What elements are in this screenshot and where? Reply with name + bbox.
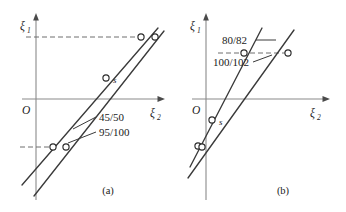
panel-a-marker-lower-2 — [63, 144, 69, 150]
panel-b-x-axis-symbol: ξ — [310, 107, 315, 120]
panel-a-caption: (a) — [102, 185, 114, 197]
panel-b-y-axis-subscript: 1 — [197, 26, 201, 35]
panel-a-marker-upper-1 — [138, 34, 144, 40]
panel-a-y-axis-arrow — [33, 13, 39, 21]
figure-svg: ξ 1 ξ 2 O s 45/50 95/100 (a) — [0, 0, 346, 212]
panel-a-y-axis-symbol: ξ — [20, 20, 25, 33]
panel-a-x-axis-subscript: 2 — [157, 113, 161, 122]
panel-b-line-label-100-102: 100/102 — [213, 56, 249, 68]
panel-a-line-45-50 — [22, 28, 158, 185]
figure-container: ξ 1 ξ 2 O s 45/50 95/100 (a) — [0, 0, 346, 212]
panel-a-marker-upper-2 — [152, 34, 158, 40]
panel-b: ξ 1 ξ 2 O s 80/82 100/102 (b) — [188, 13, 330, 200]
panel-a-x-axis-arrow — [158, 96, 166, 102]
panel-b-intersection-label: s — [219, 117, 223, 127]
panel-a-line-label-95-100: 95/100 — [99, 126, 130, 138]
panel-b-caption: (b) — [277, 185, 290, 197]
panel-a-marker-intersection — [103, 75, 109, 81]
panel-a-marker-lower-1 — [50, 144, 56, 150]
panel-b-x-axis-arrow — [323, 96, 331, 102]
panel-a-leader-95-100 — [68, 132, 96, 143]
panel-b-origin-label: O — [192, 104, 201, 116]
panel-a-line-label-45-50: 45/50 — [99, 111, 125, 123]
panel-b-x-axis-subscript: 2 — [317, 113, 321, 122]
panel-a-origin-label: O — [22, 104, 31, 116]
panel-a-y-axis-subscript: 1 — [27, 26, 31, 35]
panel-b-line-label-80-82: 80/82 — [222, 34, 247, 46]
panel-b-marker-lower-2 — [199, 144, 205, 150]
panel-a: ξ 1 ξ 2 O s 45/50 95/100 (a) — [20, 13, 165, 200]
panel-a-x-axis-symbol: ξ — [150, 107, 155, 120]
panel-b-y-axis-symbol: ξ — [190, 20, 195, 33]
panel-a-intersection-label: s — [113, 75, 117, 85]
panel-b-leader-100-102 — [253, 55, 272, 62]
panel-b-marker-upper-2 — [285, 50, 291, 56]
panel-b-marker-intersection — [209, 117, 215, 123]
panel-b-y-axis-arrow — [203, 13, 209, 21]
